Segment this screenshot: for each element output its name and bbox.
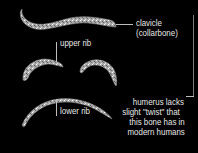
humerus-leader-line xyxy=(186,96,194,97)
humerus-label-line4: modern humans xyxy=(124,127,185,137)
humerus-bracket-line xyxy=(193,15,194,96)
clavicle-label: clavicle (collarbone) xyxy=(136,18,178,38)
fossil-bones-figure: clavicle (collarbone) upper rib lower ri… xyxy=(0,0,198,153)
humerus-label: humerus lacks slight "twist" that this b… xyxy=(124,97,185,137)
clavicle-leader-line xyxy=(116,24,133,25)
upper-rib-left xyxy=(23,59,63,80)
upper-rib-label: upper rib xyxy=(60,38,91,48)
lower-rib-label: lower rib xyxy=(60,106,90,116)
clavicle-label-line1: clavicle xyxy=(136,18,178,28)
upper-rib-leader-line xyxy=(56,42,57,62)
lower-rib-leader-line xyxy=(56,99,57,116)
clavicle-bone xyxy=(20,9,116,29)
humerus-label-line1: humerus lacks xyxy=(124,97,185,107)
humerus-label-line3: this bone has in xyxy=(124,117,185,127)
upper-rib-right xyxy=(80,60,117,86)
clavicle-label-line2: (collarbone) xyxy=(136,28,178,38)
humerus-label-line2: slight "twist" that xyxy=(122,107,185,117)
